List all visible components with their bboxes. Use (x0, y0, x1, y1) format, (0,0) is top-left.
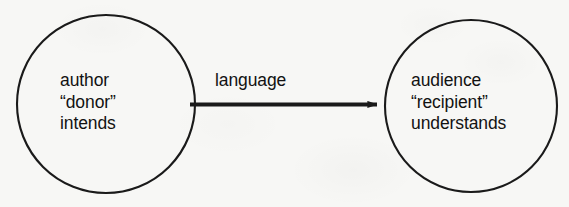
node-audience-line-3: understands (411, 113, 506, 135)
node-author-label: author “donor” intends (60, 70, 116, 135)
node-author-line-1: author (60, 70, 116, 92)
node-audience-line-2: “recipient” (411, 92, 506, 114)
node-author-line-2: “donor” (60, 92, 116, 114)
node-audience-line-1: audience (411, 70, 506, 92)
diagram-canvas: author “donor” intends audience “recipie… (0, 0, 569, 207)
node-author-line-3: intends (60, 113, 116, 135)
node-audience-label: audience “recipient” understands (411, 70, 506, 135)
edge-language-label: language (215, 70, 286, 92)
